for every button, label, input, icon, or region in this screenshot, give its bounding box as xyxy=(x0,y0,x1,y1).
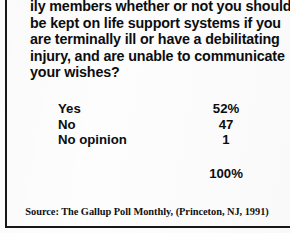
table-row: No 47 xyxy=(0,117,290,133)
bottom-border-rule xyxy=(5,226,290,228)
poll-question: ily members whether or not you should be… xyxy=(30,0,282,81)
source-citation: Source: The Gallup Poll Monthly, (Prince… xyxy=(12,205,282,218)
result-label-no: No xyxy=(58,117,76,133)
results-total-value: 100% xyxy=(186,166,266,182)
poll-results-figure: ily members whether or not you should be… xyxy=(0,0,290,233)
result-value-yes: 52% xyxy=(186,101,266,117)
question-line-5: your wishes? xyxy=(30,64,282,81)
question-line-1: ily members whether or not you should xyxy=(30,0,282,15)
result-value-no: 47 xyxy=(186,117,266,133)
question-line-3: are terminally ill or have a debilitatin… xyxy=(30,31,282,48)
table-row: Yes 52% xyxy=(0,101,290,117)
result-label-yes: Yes xyxy=(58,101,81,117)
results-table: Yes 52% No 47 No opinion 1 xyxy=(0,101,290,148)
question-line-2: be kept on life support systems if you xyxy=(30,15,282,32)
result-label-no-opinion: No opinion xyxy=(58,132,127,148)
table-row: No opinion 1 xyxy=(0,132,290,148)
result-value-no-opinion: 1 xyxy=(186,132,266,148)
question-line-4: injury, and are unable to communicate xyxy=(30,48,282,65)
